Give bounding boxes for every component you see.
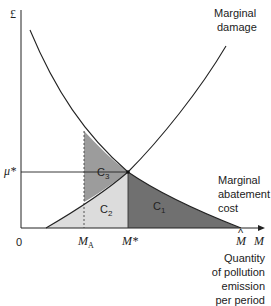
- mac-label-3: cost: [218, 202, 238, 214]
- x-caption-2: of pollution: [212, 266, 265, 278]
- m-hat-label: M: [235, 234, 247, 248]
- x-caption-3: emission: [222, 280, 265, 292]
- x-axis-label: M: [253, 234, 265, 248]
- equilibrium-point: [126, 170, 130, 174]
- mac-label-1: Marginal: [218, 174, 260, 186]
- pollution-abatement-diagram: £ 0 Marginal damage Marginal abatement c…: [0, 0, 271, 306]
- x-caption-4: per period: [215, 294, 265, 306]
- m-star-label: M*: [121, 234, 138, 248]
- origin-label: 0: [16, 236, 22, 248]
- mac-label-2: abatement: [218, 188, 270, 200]
- marginal-damage-label-2: damage: [217, 21, 257, 33]
- x-caption-1: Quantity: [224, 252, 265, 264]
- x-axis-arrow-icon: [258, 225, 265, 231]
- m-a-label: MA: [77, 234, 94, 250]
- marginal-damage-label-1: Marginal: [214, 7, 256, 19]
- y-axis-label: £: [10, 7, 16, 21]
- mu-star-label: μ*: [3, 164, 16, 178]
